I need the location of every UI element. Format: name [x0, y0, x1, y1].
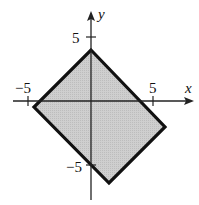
coordinate-plot: −5 5 5 −5 x y [0, 0, 199, 205]
y-tick-label-neg5: −5 [66, 159, 82, 175]
y-tick-label-5: 5 [72, 30, 80, 46]
x-tick-label-5: 5 [149, 80, 157, 96]
shaded-region [34, 50, 165, 183]
x-axis-label: x [184, 80, 192, 96]
x-tick-label-neg5: −5 [15, 80, 31, 96]
y-axis-label: y [96, 6, 105, 22]
